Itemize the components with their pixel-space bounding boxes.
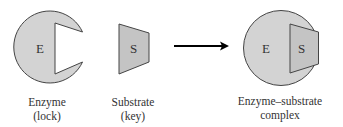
enzyme-label: Enzyme (lock) [14, 95, 80, 123]
enzyme-substrate-complex-shape: E S [244, 11, 319, 86]
substrate-label-name: Substrate [100, 95, 166, 109]
substrate-label-role: (key) [100, 109, 166, 123]
substrate-glyph: S [130, 41, 137, 56]
substrate-key-shape: S [119, 24, 149, 74]
enzyme-glyph: E [36, 41, 44, 56]
reaction-arrow [174, 42, 229, 51]
complex-label-line1: Enzyme–substrate [230, 94, 330, 108]
enzyme-label-name: Enzyme [14, 95, 80, 109]
enzyme-lock-shape: E [14, 11, 83, 83]
complex-enzyme-glyph: E [262, 41, 270, 56]
complex-label: Enzyme–substrate complex [230, 94, 330, 122]
substrate-label: Substrate (key) [100, 95, 166, 123]
complex-substrate-glyph: S [298, 41, 305, 56]
complex-label-line2: complex [230, 108, 330, 122]
enzyme-label-role: (lock) [14, 109, 80, 123]
